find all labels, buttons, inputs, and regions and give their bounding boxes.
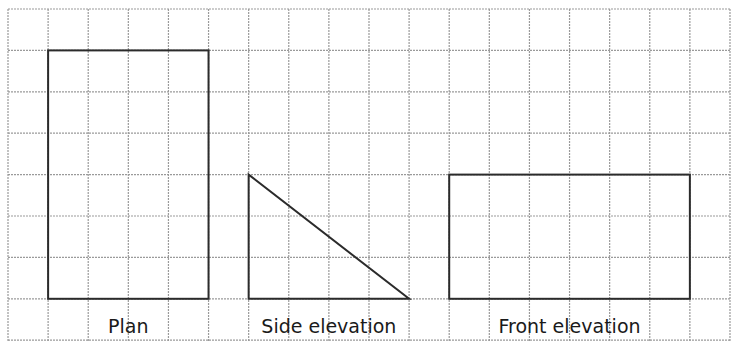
front-elevation-label: Front elevation <box>499 315 641 337</box>
diagram-canvas: Plan Side elevation Front elevation <box>0 0 735 341</box>
side-elevation-label: Side elevation <box>261 315 396 337</box>
plan-label: Plan <box>108 315 148 337</box>
